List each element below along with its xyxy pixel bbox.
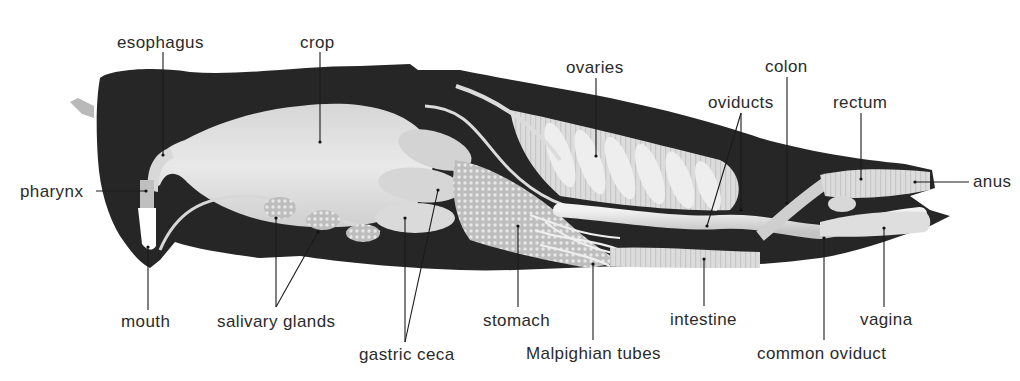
label-malpighian-tubes: Malpighian tubes (526, 344, 661, 363)
label-ovaries: ovaries (566, 58, 624, 77)
label-common-oviduct: common oviduct (757, 344, 886, 363)
label-stomach: stomach (483, 311, 550, 330)
pharynx-organ (140, 180, 154, 208)
label-vagina: vagina (860, 310, 913, 329)
label-rectum: rectum (833, 93, 887, 112)
antenna-stub (70, 98, 94, 118)
salivary-gland-3 (346, 224, 380, 242)
label-salivary-glands: salivary glands (217, 312, 335, 331)
label-anus: anus (973, 172, 1011, 191)
label-mouth: mouth (121, 312, 170, 331)
insect-anatomy-diagram: esophagus crop ovaries colon oviducts re… (0, 0, 1020, 381)
label-intestine: intestine (670, 310, 737, 329)
label-esophagus: esophagus (117, 33, 204, 52)
salivary-gland-1 (264, 197, 296, 219)
label-pharynx: pharynx (20, 182, 83, 201)
label-oviducts: oviducts (708, 93, 774, 112)
label-crop: crop (300, 33, 335, 52)
rectum-coil (828, 196, 856, 212)
label-gastric-ceca: gastric ceca (359, 345, 455, 364)
salivary-gland-2 (306, 210, 340, 230)
gastric-cecum-3 (375, 203, 455, 233)
label-colon: colon (765, 57, 808, 76)
